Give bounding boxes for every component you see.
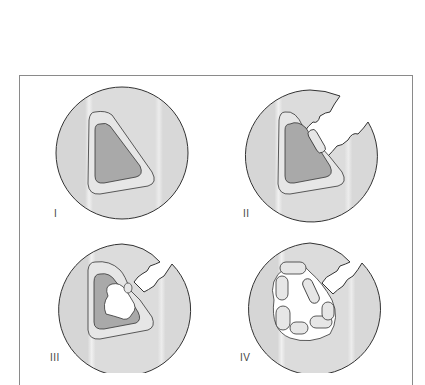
panel-label-3: III (50, 352, 60, 363)
panel-label-1: I (54, 208, 57, 219)
panel-2 (245, 90, 377, 222)
panel-1 (56, 87, 188, 219)
panel-3 (59, 244, 191, 373)
panel-label-4: IV (240, 352, 250, 363)
panel-label-2: II (243, 208, 250, 219)
panel-4 (249, 243, 381, 373)
